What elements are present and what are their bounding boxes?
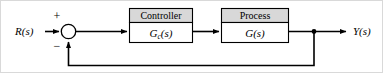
- process-transfer-function: G(s): [245, 27, 265, 40]
- process-tf-base: G: [245, 27, 253, 39]
- block-controller: Controller Gc(s): [130, 9, 193, 43]
- summing-junction-circle: [61, 24, 75, 38]
- controller-tf-arg: (s): [161, 27, 173, 40]
- input-signal-label: R(s): [14, 25, 34, 38]
- summing-junction-plus-sign: +: [54, 9, 61, 23]
- summing-junction-minus-sign: −: [54, 39, 61, 53]
- output-signal-label: Y(s): [353, 25, 371, 38]
- block-diagram-svg: R(s) + − Controller Gc(s) Process G(s): [1, 1, 383, 73]
- block-process: Process G(s): [222, 9, 289, 43]
- process-header-label: Process: [240, 10, 271, 21]
- block-diagram-canvas: R(s) + − Controller Gc(s) Process G(s): [0, 0, 383, 73]
- controller-header-label: Controller: [140, 10, 182, 21]
- process-tf-arg: (s): [253, 27, 265, 40]
- controller-tf-base: G: [150, 27, 158, 39]
